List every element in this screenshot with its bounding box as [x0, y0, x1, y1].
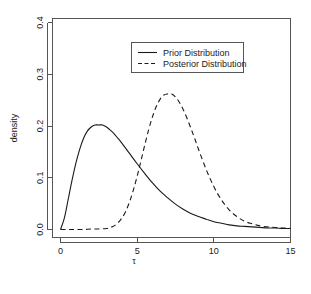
x-tick-label-3: 15 — [285, 246, 295, 256]
density-plot-svg: 0.0 0.1 0.2 0.3 0.4 0 5 10 15 τ density — [0, 0, 311, 294]
y-axis-title: density — [9, 113, 19, 142]
y-tick-label-3: 0.3 — [35, 68, 45, 81]
y-tick-label-1: 0.1 — [35, 171, 45, 184]
legend-label-prior: Prior Distribution — [163, 48, 230, 58]
y-tick-label-4: 0.4 — [35, 16, 45, 29]
y-tick-label-2: 0.2 — [35, 120, 45, 133]
x-tick-label-2: 10 — [209, 246, 219, 256]
x-tick-label-0: 0 — [58, 246, 63, 256]
chart-figure: 0.0 0.1 0.2 0.3 0.4 0 5 10 15 τ density — [0, 0, 311, 294]
y-tick-label-0: 0.0 — [35, 223, 45, 236]
x-tick-label-1: 5 — [135, 246, 140, 256]
legend-label-posterior: Posterior Distribution — [163, 59, 247, 69]
chart-legend: Prior Distribution Posterior Distributio… — [132, 43, 247, 73]
x-axis-title: τ — [132, 256, 136, 266]
